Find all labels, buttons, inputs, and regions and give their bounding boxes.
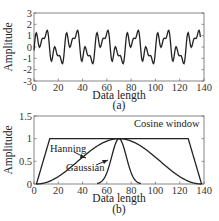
ylabel-b: Amplitude	[2, 125, 15, 174]
caption-b: (b)	[112, 203, 126, 216]
annotation-hanning: Hanning	[50, 143, 87, 154]
x-tick-label: 40	[77, 82, 88, 93]
x-tick-label: 0	[31, 82, 36, 93]
y-tick-label: 0.5	[19, 156, 32, 167]
x-tick-label: 20	[53, 185, 64, 196]
x-tick-label: 20	[53, 82, 64, 93]
y-tick-label: -1	[23, 53, 32, 64]
y-tick-label: 2	[27, 19, 32, 30]
y-tick-label: 0	[27, 179, 32, 190]
ylabel-a: Amplitude	[2, 22, 15, 71]
y-tick-label: 1.5	[19, 111, 32, 122]
signal-line	[34, 30, 200, 63]
caption-a: (a)	[113, 99, 126, 112]
x-tick-label: 40	[77, 185, 88, 196]
x-tick-label: 120	[172, 82, 188, 93]
y-tick-label: 1	[27, 133, 32, 144]
x-tick-label: 140	[196, 82, 212, 93]
x-tick-label: 120	[172, 185, 188, 196]
y-tick-label: -3	[23, 76, 32, 87]
x-tick-label: 0	[31, 185, 36, 196]
y-tick-label: 1	[27, 30, 32, 41]
figure: 020406080100120140-3-2-10123 Data length…	[0, 0, 219, 221]
annotation-cosine-window: Cosine window	[134, 118, 200, 129]
y-tick-label: 3	[27, 8, 32, 19]
x-tick-label: 100	[148, 185, 164, 196]
panel-b: 02040608010012014000.511.5 Cosine window…	[2, 111, 212, 217]
x-tick-label: 140	[196, 185, 212, 196]
axes-frame-a	[34, 13, 204, 81]
x-tick-label: 100	[148, 82, 164, 93]
y-tick-label: -2	[23, 64, 32, 75]
panel-a: 020406080100120140-3-2-10123 Data length…	[2, 8, 212, 113]
y-tick-label: 0	[27, 42, 32, 53]
